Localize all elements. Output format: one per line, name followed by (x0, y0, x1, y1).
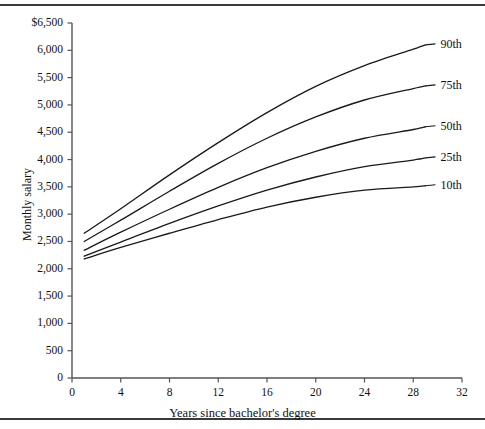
series-leader-line (425, 44, 435, 45)
series-label-25th: 25th (440, 150, 461, 165)
series-leader-line (425, 157, 435, 158)
label-leader-lines-group (425, 44, 435, 186)
series-curve (84, 86, 425, 242)
x-tick-label: 24 (340, 387, 390, 399)
y-tick-label: 5,000 (0, 99, 63, 111)
series-leader-line (425, 185, 435, 186)
y-axis-title: Monthly salary (20, 168, 35, 241)
series-curve (84, 45, 425, 233)
series-curve (84, 127, 425, 250)
data-curves-group (84, 45, 425, 259)
axes-group (68, 23, 463, 383)
x-axis-title: Years since bachelor's degree (0, 406, 485, 421)
y-tick-label: 1,500 (0, 290, 63, 302)
chart-plot-area (0, 0, 485, 429)
y-tick-label: 500 (0, 345, 63, 357)
series-curve (84, 186, 425, 259)
y-tick-label: 4,500 (0, 126, 63, 138)
y-tick-label: 6,000 (0, 44, 63, 56)
series-leader-line (425, 126, 435, 127)
x-tick-label: 0 (47, 387, 97, 399)
y-tick-label: 4,000 (0, 154, 63, 166)
series-label-90th: 90th (440, 37, 461, 52)
y-tick-label: 2,000 (0, 263, 63, 275)
y-tick-label: 1,000 (0, 317, 63, 329)
series-label-10th: 10th (440, 178, 461, 193)
x-tick-label: 20 (291, 387, 341, 399)
y-tick-label: 0 (0, 372, 63, 384)
x-tick-label: 4 (96, 387, 146, 399)
x-tick-label: 32 (437, 387, 485, 399)
x-tick-label: 12 (193, 387, 243, 399)
series-label-75th: 75th (440, 78, 461, 93)
figure-container: 05001,0001,5002,0002,5003,0003,5004,0004… (0, 0, 485, 429)
series-label-50th: 50th (440, 119, 461, 134)
x-tick-label: 16 (242, 387, 292, 399)
y-tick-label: 5,500 (0, 72, 63, 84)
x-tick-label: 28 (388, 387, 438, 399)
y-tick-label: $6,500 (0, 17, 63, 29)
series-leader-line (425, 85, 435, 86)
x-tick-label: 8 (145, 387, 195, 399)
